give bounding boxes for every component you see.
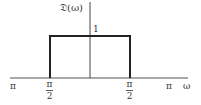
y-axis-label: 𝔇(ω): [60, 3, 83, 12]
y-tick-one: 1: [93, 25, 99, 34]
frac-denominator: 2: [47, 92, 53, 101]
x-tick-neg-half-pi: π 2: [46, 80, 53, 101]
x-tick-pos-pi: π: [166, 82, 172, 91]
frac-denominator: 2: [127, 92, 133, 101]
x-tick-neg-pi: π: [10, 82, 16, 91]
frac-numerator: π: [47, 80, 53, 89]
frac-numerator: π: [127, 80, 133, 89]
x-axis-label: ω: [183, 82, 190, 91]
x-tick-pos-half-pi: π 2: [126, 80, 133, 101]
